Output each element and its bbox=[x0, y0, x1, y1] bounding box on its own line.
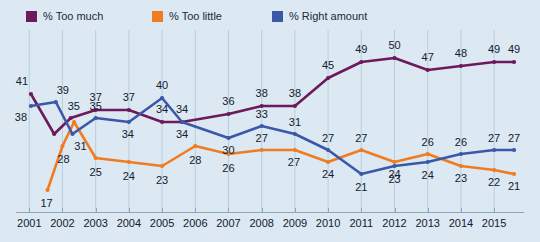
data-point[interactable] bbox=[359, 60, 363, 64]
data-label: 37 bbox=[123, 92, 135, 103]
data-point[interactable] bbox=[52, 132, 56, 136]
x-tick-mark bbox=[29, 208, 30, 212]
data-point[interactable] bbox=[326, 148, 330, 152]
data-point[interactable] bbox=[326, 160, 330, 164]
data-label: 39 bbox=[57, 85, 69, 96]
data-point[interactable] bbox=[492, 60, 496, 64]
data-point[interactable] bbox=[193, 144, 197, 148]
data-point[interactable] bbox=[459, 152, 463, 156]
data-label: 23 bbox=[455, 173, 467, 184]
data-point[interactable] bbox=[94, 116, 98, 120]
x-tick-label: 2007 bbox=[216, 218, 240, 229]
data-label: 34 bbox=[122, 129, 134, 140]
data-point[interactable] bbox=[512, 148, 516, 152]
data-label: 27 bbox=[256, 133, 268, 144]
data-point[interactable] bbox=[512, 60, 516, 64]
x-tick-mark bbox=[461, 208, 462, 212]
legend-item-right-amount[interactable]: % Right amount bbox=[272, 8, 367, 24]
data-label: 38 bbox=[289, 88, 301, 99]
data-label: 35 bbox=[68, 101, 80, 112]
data-point[interactable] bbox=[226, 112, 230, 116]
data-label: 45 bbox=[322, 60, 334, 71]
data-point[interactable] bbox=[60, 144, 64, 148]
data-point[interactable] bbox=[72, 120, 76, 124]
data-label: 38 bbox=[15, 112, 27, 123]
legend-swatch-right-amount bbox=[272, 11, 283, 22]
data-label: 34 bbox=[156, 104, 168, 115]
x-tick-label: 2010 bbox=[316, 218, 340, 229]
data-label: 24 bbox=[322, 169, 334, 180]
data-point[interactable] bbox=[127, 160, 131, 164]
data-point[interactable] bbox=[160, 164, 164, 168]
legend-item-too-little[interactable]: % Too little bbox=[152, 8, 222, 24]
data-point[interactable] bbox=[426, 68, 430, 72]
data-point[interactable] bbox=[392, 160, 396, 164]
data-label: 35 bbox=[90, 101, 102, 112]
x-tick-label: 2004 bbox=[117, 218, 141, 229]
legend-swatch-too-little bbox=[152, 11, 163, 22]
data-point[interactable] bbox=[29, 104, 33, 108]
data-label: 49 bbox=[488, 44, 500, 55]
data-point[interactable] bbox=[127, 120, 131, 124]
data-label: 26 bbox=[455, 137, 467, 148]
data-point[interactable] bbox=[160, 96, 164, 100]
data-label: 25 bbox=[90, 167, 102, 178]
x-tick-label: 2015 bbox=[482, 218, 506, 229]
data-label: 50 bbox=[388, 40, 400, 51]
data-label: 47 bbox=[422, 52, 434, 63]
data-point[interactable] bbox=[426, 160, 430, 164]
data-point[interactable] bbox=[226, 136, 230, 140]
data-point[interactable] bbox=[426, 152, 430, 156]
data-point[interactable] bbox=[180, 120, 184, 124]
data-point[interactable] bbox=[70, 132, 74, 136]
data-label: 24 bbox=[123, 171, 135, 182]
data-label: 34 bbox=[176, 129, 188, 140]
data-label: 17 bbox=[40, 198, 52, 209]
data-point[interactable] bbox=[260, 124, 264, 128]
series-line-1 bbox=[48, 122, 514, 190]
data-point[interactable] bbox=[293, 132, 297, 136]
x-tick-mark bbox=[262, 208, 263, 212]
data-point[interactable] bbox=[512, 172, 516, 176]
data-label: 34 bbox=[176, 104, 188, 115]
x-tick-label: 2014 bbox=[449, 218, 473, 229]
x-tick-mark bbox=[361, 208, 362, 212]
data-label: 27 bbox=[508, 133, 520, 144]
data-point[interactable] bbox=[459, 164, 463, 168]
data-point[interactable] bbox=[54, 100, 58, 104]
legend-label-too-much: % Too much bbox=[43, 11, 103, 22]
data-point[interactable] bbox=[160, 120, 164, 124]
data-point[interactable] bbox=[94, 156, 98, 160]
data-point[interactable] bbox=[492, 168, 496, 172]
x-tick-label: 2005 bbox=[150, 218, 174, 229]
data-point[interactable] bbox=[69, 116, 73, 120]
data-point[interactable] bbox=[29, 92, 33, 96]
data-label: 27 bbox=[288, 157, 300, 168]
data-point[interactable] bbox=[45, 188, 49, 192]
data-label: 41 bbox=[16, 76, 28, 87]
data-point[interactable] bbox=[392, 56, 396, 60]
x-tick-mark bbox=[228, 208, 229, 212]
x-axis: 2001200220032004200520062007200820092010… bbox=[0, 212, 540, 242]
data-label: 24 bbox=[422, 170, 434, 181]
data-label: 49 bbox=[355, 44, 367, 55]
data-point[interactable] bbox=[326, 76, 330, 80]
data-point[interactable] bbox=[359, 148, 363, 152]
x-tick-label: 2009 bbox=[283, 218, 307, 229]
data-point[interactable] bbox=[359, 172, 363, 176]
data-label: 22 bbox=[488, 177, 500, 188]
data-point[interactable] bbox=[293, 148, 297, 152]
x-tick-label: 2008 bbox=[249, 218, 273, 229]
data-label: 21 bbox=[508, 181, 520, 192]
data-point[interactable] bbox=[260, 148, 264, 152]
data-label: 28 bbox=[189, 155, 201, 166]
data-point[interactable] bbox=[293, 104, 297, 108]
data-label: 27 bbox=[322, 133, 334, 144]
data-point[interactable] bbox=[127, 108, 131, 112]
data-label: 26 bbox=[222, 163, 234, 174]
data-point[interactable] bbox=[459, 64, 463, 68]
chart-legend: % Too much % Too little % Right amount bbox=[0, 0, 540, 30]
legend-item-too-much[interactable]: % Too much bbox=[26, 8, 103, 24]
data-point[interactable] bbox=[492, 148, 496, 152]
x-tick-mark bbox=[494, 208, 495, 212]
